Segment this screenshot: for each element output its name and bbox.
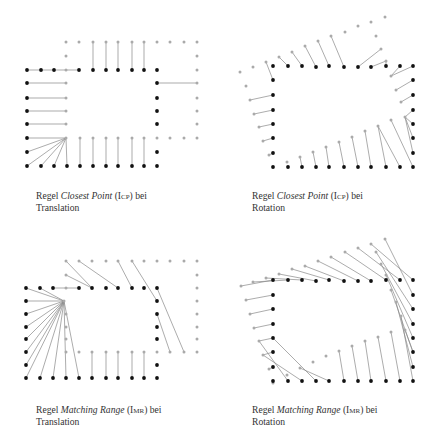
- correspondence-line: [254, 110, 273, 114]
- model-point: [25, 109, 29, 113]
- data-point: [330, 35, 333, 38]
- data-point: [143, 260, 146, 263]
- correspondence-line: [365, 341, 371, 381]
- caption-italic: Closest: [277, 190, 305, 201]
- data-point: [380, 48, 383, 51]
- correspondence-line: [381, 264, 413, 324]
- data-point: [364, 340, 367, 343]
- caption-line2: Rotation: [252, 416, 378, 428]
- data-point: [156, 260, 159, 263]
- data-point: [249, 99, 252, 102]
- diagram-canvas: [0, 0, 440, 443]
- model-point: [77, 286, 81, 290]
- data-point: [325, 355, 328, 358]
- data-point: [258, 126, 261, 129]
- data-point: [317, 260, 320, 263]
- panel-imr-rotation: [240, 238, 415, 385]
- data-point: [262, 354, 265, 357]
- data-point: [156, 137, 159, 140]
- model-point: [38, 286, 42, 290]
- model-point: [52, 164, 56, 168]
- model-point: [271, 165, 275, 169]
- model-point: [411, 78, 415, 82]
- data-point: [65, 41, 68, 44]
- model-point: [411, 93, 415, 97]
- correspondence-line: [26, 301, 64, 352]
- data-point: [304, 265, 307, 268]
- model-point: [24, 350, 28, 354]
- correspondence-line: [318, 41, 329, 66]
- model-point: [25, 164, 29, 168]
- correspondence-line: [365, 131, 371, 167]
- data-point: [252, 281, 255, 284]
- model-point: [411, 136, 415, 140]
- caption-text: Regel: [36, 190, 61, 201]
- caption-icp-rotation: Regel Closest Point (Icp) bei Rotation: [252, 190, 363, 214]
- model-point: [25, 136, 29, 140]
- model-point: [155, 325, 159, 329]
- caption-line2: Translation: [36, 202, 147, 214]
- model-point: [24, 325, 28, 329]
- model-point: [300, 64, 304, 68]
- model-point: [271, 322, 275, 326]
- data-point: [91, 260, 94, 263]
- data-point: [143, 137, 146, 140]
- data-point: [384, 238, 387, 241]
- data-point: [156, 351, 159, 354]
- model-point: [24, 376, 28, 380]
- model-point: [271, 151, 275, 155]
- data-point: [385, 274, 388, 277]
- model-point: [384, 64, 388, 68]
- model-point: [411, 307, 415, 311]
- model-point: [25, 150, 29, 154]
- model-point: [25, 81, 29, 85]
- data-point: [65, 260, 68, 263]
- model-point: [104, 376, 108, 380]
- caption-line2: Rotation: [252, 202, 363, 214]
- model-point: [411, 64, 415, 68]
- model-point: [155, 96, 159, 100]
- caption-icp-translation: Regel Closest Point (Icp) bei Translatio…: [36, 190, 147, 214]
- data-point: [249, 313, 252, 316]
- model-point: [369, 379, 373, 383]
- model-point: [116, 68, 120, 72]
- data-point: [380, 263, 383, 266]
- data-point: [375, 35, 378, 38]
- data-point: [131, 41, 134, 44]
- data-point: [330, 256, 333, 259]
- model-point: [130, 376, 134, 380]
- model-point: [271, 93, 275, 97]
- model-point: [142, 286, 146, 290]
- data-point: [312, 151, 315, 154]
- model-point: [411, 165, 415, 169]
- data-point: [265, 61, 268, 64]
- model-point: [104, 164, 108, 168]
- model-point: [411, 322, 415, 326]
- model-point: [39, 68, 43, 72]
- model-point: [271, 350, 275, 354]
- data-point: [65, 110, 68, 113]
- model-point: [142, 376, 146, 380]
- model-point: [155, 312, 159, 316]
- model-point: [38, 376, 42, 380]
- data-point: [79, 137, 82, 140]
- data-point: [196, 55, 199, 58]
- data-point: [196, 69, 199, 72]
- model-point: [25, 68, 29, 72]
- correspondence-line: [401, 95, 413, 102]
- data-point: [65, 82, 68, 85]
- model-point: [39, 164, 43, 168]
- data-point: [65, 338, 68, 341]
- data-point: [65, 287, 68, 290]
- data-point: [299, 156, 302, 159]
- model-point: [142, 68, 146, 72]
- model-point: [411, 365, 415, 369]
- model-point: [300, 379, 304, 383]
- model-point: [91, 164, 95, 168]
- model-point: [369, 279, 373, 283]
- panel-imr-translation: [24, 260, 198, 380]
- data-point: [183, 260, 186, 263]
- data-point: [400, 315, 403, 318]
- model-point: [155, 376, 159, 380]
- model-point: [271, 336, 275, 340]
